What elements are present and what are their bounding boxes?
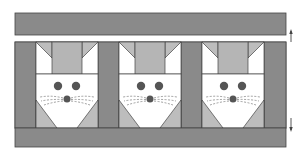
sashing-column-1 — [15, 42, 36, 128]
sashing-column-4 — [264, 42, 286, 128]
top-border-strip — [15, 13, 286, 35]
mouse-block-3 — [202, 42, 264, 128]
quilt-diagram — [0, 0, 303, 157]
bottom-border-strip — [15, 128, 286, 147]
mouse-block-2 — [119, 42, 181, 128]
sashing-column-3 — [181, 42, 202, 128]
mouse-block-1 — [36, 42, 98, 128]
up-arrow-icon — [289, 29, 292, 42]
down-arrow-icon — [289, 118, 292, 132]
sashing-column-2 — [98, 42, 119, 128]
